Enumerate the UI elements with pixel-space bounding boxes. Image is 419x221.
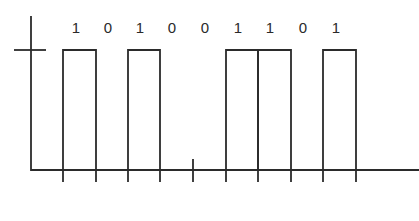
bit-label: 1 xyxy=(332,19,340,36)
bit-label: 0 xyxy=(168,19,176,36)
signal-waveform-diagram: 1 0 1 0 0 1 1 0 1 xyxy=(0,0,419,221)
bit-label: 1 xyxy=(72,19,80,36)
bit-label: 1 xyxy=(234,19,242,36)
pulse xyxy=(258,50,291,170)
bit-label: 1 xyxy=(266,19,274,36)
pulse xyxy=(226,50,258,170)
bit-label: 1 xyxy=(136,19,144,36)
bit-label: 0 xyxy=(104,19,112,36)
bit-label: 0 xyxy=(201,19,209,36)
pulse xyxy=(128,50,160,170)
bit-labels: 1 0 1 0 0 1 1 0 1 xyxy=(72,19,340,36)
pulses xyxy=(63,50,356,170)
bit-label: 0 xyxy=(299,19,307,36)
pulse xyxy=(63,50,96,170)
pulse xyxy=(323,50,356,170)
